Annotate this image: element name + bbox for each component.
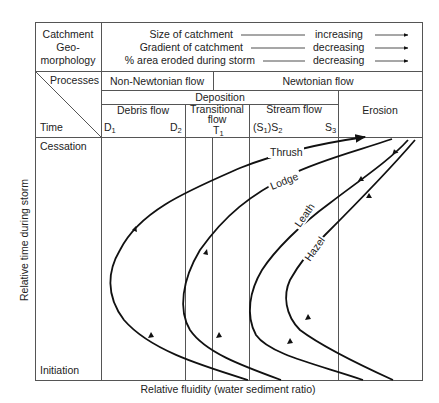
y-axis-label: Relative time during storm: [18, 179, 30, 301]
trend-direction-size: increasing: [315, 28, 363, 40]
x-axis-label: Relative fluidity (water sediment ratio): [140, 383, 315, 395]
curve-label-lodge: Lodge: [268, 170, 300, 192]
curve-label-hazel: Hazel: [302, 234, 327, 263]
direction-arrows: [132, 148, 399, 344]
processes-label: Processes: [50, 74, 99, 86]
d1-label: D1: [104, 121, 116, 135]
stream-flow-label: Stream flow: [266, 103, 322, 115]
arrow-up-icon: [287, 338, 293, 344]
storm-curves: [110, 137, 415, 380]
deposition-label: Deposition: [195, 91, 245, 103]
erosion-label: Erosion: [362, 104, 398, 116]
debris-flow-label: Debris flow: [117, 104, 169, 116]
trend-label-eroded: % area eroded during storm: [125, 54, 255, 66]
curve-label-thrush: Thrush: [270, 146, 303, 158]
arrow-up-icon: [305, 314, 311, 320]
svg-text:Geo-: Geo-: [56, 41, 80, 53]
catchment-geomorphology-label: Catchment Geo- morphology: [41, 28, 97, 66]
catchment-flow-diagram: Catchment Geo- morphology Size of catchm…: [0, 0, 439, 403]
trend-rows: Size of catchment increasing Gradient of…: [125, 28, 408, 66]
cessation-label: Cessation: [40, 140, 87, 152]
trend-label-gradient: Gradient of catchment: [140, 41, 243, 53]
arrow-up-icon: [216, 332, 222, 338]
s1-s2-label: (S1)S2: [253, 121, 282, 135]
trend-direction-eroded: decreasing: [313, 54, 365, 66]
curve-leath: [250, 140, 408, 380]
arrow-up-icon: [148, 332, 154, 338]
d2-label: D2: [170, 121, 182, 135]
s3-label: S3: [325, 121, 336, 135]
newtonian-flow-label: Newtonian flow: [282, 75, 354, 87]
non-newtonian-flow-label: Non-Newtonian flow: [110, 75, 204, 87]
arrow-up-icon: [203, 249, 208, 255]
t1-label: T1: [213, 124, 224, 138]
trend-label-size: Size of catchment: [150, 28, 234, 40]
time-label: Time: [40, 121, 63, 133]
arrow-right-icon: [366, 193, 372, 198]
svg-text:Catchment: Catchment: [43, 28, 94, 40]
svg-text:morphology: morphology: [41, 54, 97, 66]
trend-direction-gradient: decreasing: [313, 41, 365, 53]
curve-thrush: [110, 137, 365, 380]
initiation-label: Initiation: [40, 364, 79, 376]
